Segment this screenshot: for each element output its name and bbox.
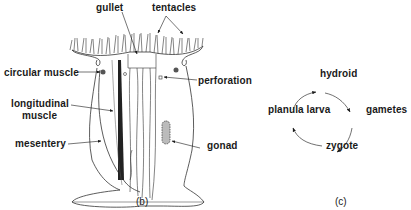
label-longitudinal-muscle-line2: muscle — [22, 110, 57, 121]
cycle-stage-hydroid: hydroid — [320, 68, 357, 79]
label-circular-muscle: circular muscle — [4, 67, 79, 78]
perforation-marker — [159, 76, 162, 79]
caption-c: (c) — [335, 196, 347, 207]
label-perforation: perforation — [198, 75, 252, 86]
label-gonad: gonad — [207, 140, 238, 151]
label-pointers — [68, 12, 200, 148]
gullet-structure — [128, 54, 156, 200]
label-longitudinal-muscle-line1: longitudinal — [11, 98, 69, 109]
cycle-stage-zygote: zygote — [326, 140, 358, 151]
tentacles-fringe — [70, 33, 203, 54]
cycle-stage-planula-larva: planula larva — [268, 104, 330, 115]
anemone-body — [72, 46, 204, 207]
label-tentacles: tentacles — [152, 2, 196, 13]
circular-muscle-dot — [101, 70, 106, 75]
gonad-shape — [162, 121, 170, 144]
label-mesentery: mesentery — [15, 138, 66, 149]
caption-b: (b) — [136, 196, 148, 207]
label-gullet: gullet — [96, 2, 123, 13]
cycle-stage-gametes: gametes — [366, 104, 407, 115]
